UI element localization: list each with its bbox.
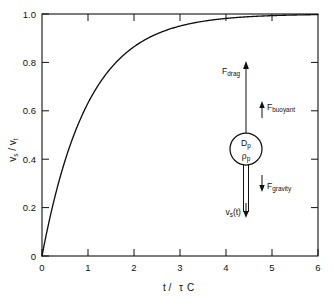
y-tick-label-0: 0 — [31, 251, 36, 262]
y-axis-title-slash: / — [7, 145, 18, 153]
settling-velocity-chart: 0 0.2 0.4 0.6 0.8 1.0 0 1 2 3 4 5 6 t / … — [0, 0, 335, 299]
y-tick-label-0.6: 0.6 — [23, 105, 36, 116]
arrowhead-velocity-down — [243, 211, 248, 218]
force-label-drag: Fdrag — [222, 66, 240, 78]
y-tick-label-0.2: 0.2 — [23, 202, 36, 213]
y-axis-title-sub2: t — [12, 138, 19, 140]
x-tick-label-2: 2 — [131, 262, 136, 273]
force-arrow-buoyant — [259, 101, 264, 118]
x-axis-ticks — [42, 249, 318, 256]
particle-diameter-label: Dp — [241, 138, 251, 150]
particle-density-label: ρp — [242, 151, 251, 163]
x-tick-label-5: 5 — [269, 262, 274, 273]
force-label-gravity: Fgravity — [267, 181, 292, 193]
arrowhead-buoyant-up — [259, 101, 264, 108]
plot-frame — [42, 14, 318, 256]
y-axis-title-group: vs / vt — [7, 138, 19, 162]
x-tick-label-1: 1 — [85, 262, 90, 273]
free-body-diagram: Fdrag Fbuoyant Dp ρp — [222, 61, 295, 218]
velocity-label: vs(t) — [225, 207, 241, 218]
force-arrow-gravity — [259, 175, 264, 192]
y-axis-ticks-right — [311, 62, 318, 207]
x-tick-label-0: 0 — [39, 262, 44, 273]
data-curve — [42, 15, 318, 256]
x-axis-title-tau: τ — [179, 282, 183, 293]
arrowhead-gravity-down — [259, 185, 264, 192]
x-axis-title: t / τ C — [163, 282, 194, 293]
x-tick-label-3: 3 — [177, 262, 182, 273]
y-tick-label-0.8: 0.8 — [23, 57, 36, 68]
force-label-buoyant: Fbuoyant — [267, 102, 295, 114]
x-axis-title-sub: C — [187, 282, 194, 293]
x-axis-title-var: t / — [163, 282, 172, 293]
arrowhead-drag-up — [243, 61, 249, 69]
figure-container: 0 0.2 0.4 0.6 0.8 1.0 0 1 2 3 4 5 6 t / … — [0, 0, 335, 299]
x-tick-label-6: 6 — [315, 262, 320, 273]
y-axis-ticks — [42, 14, 49, 256]
velocity-arrow — [243, 203, 248, 218]
force-arrow-drag — [243, 61, 249, 133]
y-tick-label-1.0: 1.0 — [23, 9, 36, 20]
y-tick-label-0.4: 0.4 — [23, 154, 36, 165]
x-tick-label-4: 4 — [223, 262, 228, 273]
y-axis-title: vs / vt — [7, 138, 19, 162]
